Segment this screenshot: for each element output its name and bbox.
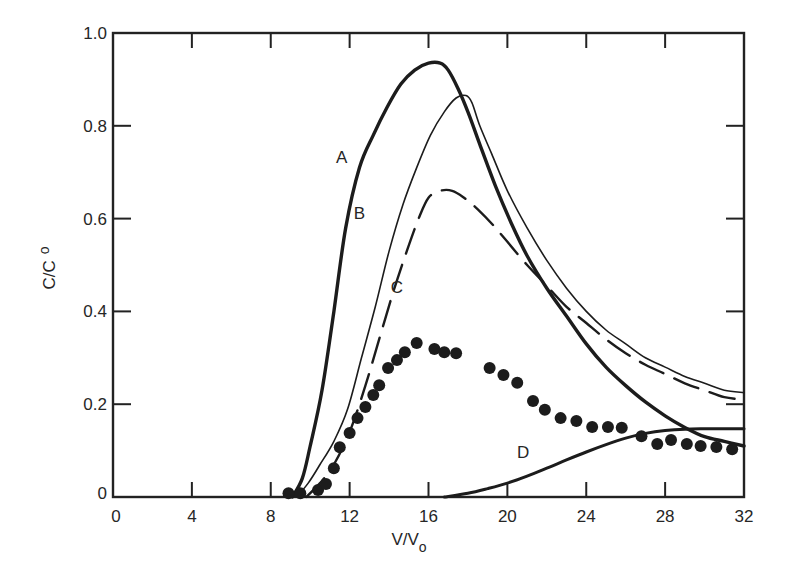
data-point: [320, 478, 332, 490]
data-point: [681, 438, 693, 450]
data-point: [352, 412, 364, 424]
y-tick-label: 0.4: [83, 302, 107, 321]
data-point: [511, 377, 523, 389]
data-point: [539, 404, 551, 416]
data-point: [635, 430, 647, 442]
plot-frame: [113, 33, 744, 497]
data-point: [710, 441, 722, 453]
x-tick-label: 8: [266, 507, 275, 526]
data-point: [282, 487, 294, 499]
y-tick-label: 1.0: [83, 24, 107, 43]
curve-a: [292, 62, 744, 497]
plot-border: [113, 33, 744, 497]
data-point: [602, 421, 614, 433]
y-tick-label: 0: [98, 484, 107, 503]
x-tick-label: 28: [656, 507, 675, 526]
x-tick-label: 0: [111, 507, 120, 526]
curve-label-d: D: [517, 443, 529, 462]
data-point: [586, 421, 598, 433]
data-point: [484, 362, 496, 374]
data-point: [527, 395, 539, 407]
data-point: [616, 422, 628, 434]
y-axis-label: C/Co: [36, 246, 59, 289]
data-point: [450, 347, 462, 359]
x-tick-label: 20: [498, 507, 517, 526]
data-point: [726, 443, 738, 455]
curve-label-a: A: [336, 148, 348, 167]
data-point: [695, 440, 707, 452]
data-point: [334, 441, 346, 453]
x-tick-label: 24: [577, 507, 596, 526]
x-tick-label: 12: [340, 507, 359, 526]
curves: [292, 62, 744, 497]
x-axis-label: V/Vo: [391, 530, 426, 555]
data-point: [497, 369, 509, 381]
curve-label-c: C: [391, 278, 403, 297]
chart: 04812162024283200.20.40.60.81.0 ABCD V/V…: [0, 0, 787, 578]
x-tick-label: 4: [187, 507, 196, 526]
data-point: [373, 379, 385, 391]
data-point: [438, 346, 450, 358]
data-point: [651, 438, 663, 450]
curve-label-b: B: [354, 204, 365, 223]
data-point: [399, 346, 411, 358]
data-point: [359, 401, 371, 413]
data-point: [555, 412, 567, 424]
x-tick-label: 16: [419, 507, 438, 526]
data-point: [294, 487, 306, 499]
y-tick-label: 0.8: [83, 117, 107, 136]
data-point: [344, 427, 356, 439]
data-point: [411, 337, 423, 349]
data-point: [328, 462, 340, 474]
x-tick-label: 32: [735, 507, 754, 526]
data-point: [570, 415, 582, 427]
y-tick-label: 0.6: [83, 210, 107, 229]
y-tick-label: 0.2: [83, 395, 107, 414]
curve-d: [444, 429, 744, 497]
axis-ticks: 04812162024283200.20.40.60.81.0: [83, 24, 753, 526]
data-point: [665, 434, 677, 446]
